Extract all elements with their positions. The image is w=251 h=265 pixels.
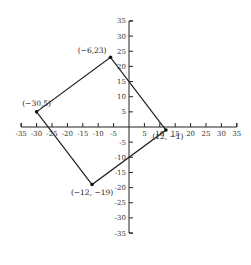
y-tick-label: 15 <box>117 78 126 86</box>
vertex-label: (−30,5) <box>22 99 51 108</box>
vertex-point <box>35 110 39 114</box>
x-tick-label: -10 <box>93 130 104 138</box>
x-tick-label: 5 <box>142 130 146 138</box>
y-tick-label: -35 <box>115 230 126 238</box>
y-tick-label: -20 <box>115 184 126 192</box>
y-tick-label: -5 <box>119 139 126 147</box>
x-tick-label: -30 <box>31 130 42 138</box>
x-tick-label: -35 <box>16 130 27 138</box>
quadrilateral <box>37 57 166 184</box>
vertex-point <box>109 56 113 60</box>
vertex-label: (−12, −19) <box>71 188 113 197</box>
axes <box>21 21 237 233</box>
coordinate-plane: -35-30-25-20-15-10-551015202530353530252… <box>0 0 251 265</box>
x-tick-label: -5 <box>110 130 117 138</box>
x-tick-label: -20 <box>62 130 73 138</box>
x-tick-label: 20 <box>186 130 195 138</box>
y-tick-label: -25 <box>115 199 126 207</box>
quadrilateral-edges <box>37 57 166 184</box>
y-tick-label: 25 <box>117 48 126 56</box>
y-tick-label: 5 <box>122 108 126 116</box>
y-tick-label: -15 <box>115 169 126 177</box>
y-tick-label: 10 <box>117 93 126 101</box>
y-tick-label: -30 <box>115 214 126 222</box>
vertex-label: (−6,23) <box>78 46 107 55</box>
x-tick-label: 35 <box>232 130 241 138</box>
x-tick-label: 25 <box>202 130 211 138</box>
x-tick-label: 30 <box>217 130 226 138</box>
vertex-label: (12, −1) <box>152 132 183 141</box>
vertex-point <box>90 183 94 187</box>
x-tick-label: -15 <box>77 130 88 138</box>
y-tick-label: 30 <box>117 33 126 41</box>
y-tick-label: 35 <box>117 17 126 25</box>
